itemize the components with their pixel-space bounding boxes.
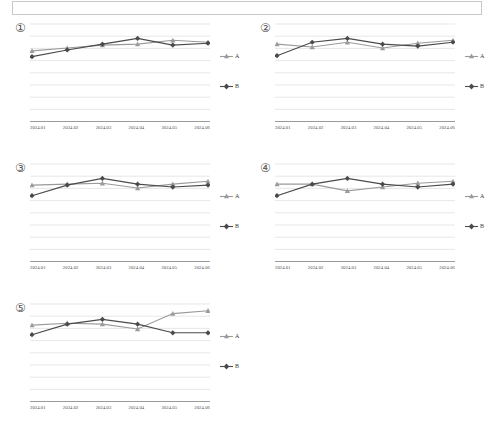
chart-legend: A B: [465, 51, 497, 111]
data-point-marker-b[interactable]: [345, 176, 350, 181]
series-line-a: [32, 311, 208, 329]
data-point-marker-b[interactable]: [205, 330, 210, 335]
x-axis-tick-label: 2024.03: [96, 125, 112, 137]
chart-plot-area[interactable]: [275, 160, 455, 264]
data-point-marker-b[interactable]: [65, 322, 70, 327]
triangle-marker-icon: [220, 52, 233, 61]
data-point-marker-b[interactable]: [100, 317, 105, 322]
x-axis-tick-label: 2024.02: [63, 125, 79, 137]
x-axis-tick-label: 2024.01: [30, 405, 46, 417]
x-axis-tick-label: 2024.06: [194, 265, 210, 277]
legend-label-a: A: [480, 53, 484, 59]
data-point-marker-b[interactable]: [170, 43, 175, 48]
x-axis-tick-label: 2024.02: [63, 405, 79, 417]
top-empty-panel: [12, 1, 482, 15]
chart-plot-area[interactable]: [30, 300, 210, 404]
legend-item-a[interactable]: A: [220, 331, 254, 341]
legend-item-b[interactable]: B: [465, 221, 497, 231]
line-chart-svg: [275, 20, 455, 124]
data-point-marker-b[interactable]: [100, 176, 105, 181]
x-axis-tick-label: 2024.04: [374, 265, 390, 277]
data-point-marker-b[interactable]: [380, 42, 385, 47]
data-point-marker-b[interactable]: [170, 330, 175, 335]
chart-plot-area[interactable]: [30, 160, 210, 264]
x-axis-tick-label: 2024.04: [129, 125, 145, 137]
chart-panel-1: ① 2024.012024.022024.032024.042024.05202…: [6, 18, 246, 158]
chart-panel-3: ③ 2024.012024.022024.032024.042024.05202…: [6, 158, 246, 298]
chart-legend: A B: [220, 191, 254, 251]
gridlines: [30, 164, 210, 249]
data-point-marker-b[interactable]: [380, 182, 385, 187]
x-axis-labels: 2024.012024.022024.032024.042024.052024.…: [30, 125, 210, 137]
gridlines: [30, 24, 210, 109]
triangle-marker-icon: [220, 192, 233, 201]
diamond-marker-icon: [465, 222, 478, 231]
data-point-marker-b[interactable]: [275, 53, 280, 58]
x-axis-tick-label: 2024.02: [63, 265, 79, 277]
legend-item-b[interactable]: B: [220, 221, 254, 231]
x-axis-tick-label: 2024.02: [308, 125, 324, 137]
series-line-a: [32, 40, 208, 51]
x-axis-tick-label: 2024.01: [30, 265, 46, 277]
legend-label-b: B: [480, 223, 484, 229]
data-point-marker-b[interactable]: [65, 183, 70, 188]
chart-index-badge: ②: [259, 22, 272, 35]
legend-label-b: B: [235, 363, 239, 369]
chart-legend: A B: [465, 191, 497, 251]
line-chart-svg: [275, 160, 455, 264]
data-point-marker-b[interactable]: [275, 193, 280, 198]
data-point-marker-b[interactable]: [30, 54, 35, 59]
chart-index-badge: ⑤: [14, 302, 27, 315]
x-axis-tick-label: 2024.01: [275, 125, 291, 137]
x-axis-tick-label: 2024.01: [30, 125, 46, 137]
legend-item-b[interactable]: B: [220, 81, 254, 91]
triangle-marker-icon: [465, 52, 478, 61]
chart-panel-4: ④ 2024.012024.022024.032024.042024.05202…: [251, 158, 491, 298]
chart-index-badge: ①: [14, 22, 27, 35]
legend-item-a[interactable]: A: [465, 191, 497, 201]
x-axis-labels: 2024.012024.022024.032024.042024.052024.…: [275, 265, 455, 277]
triangle-marker-icon: [220, 332, 233, 341]
x-axis-tick-label: 2024.05: [406, 265, 422, 277]
legend-label-a: A: [235, 193, 239, 199]
legend-item-a[interactable]: A: [465, 51, 497, 61]
data-point-marker-b[interactable]: [310, 40, 315, 45]
legend-item-b[interactable]: B: [220, 361, 254, 371]
x-axis-tick-label: 2024.05: [161, 405, 177, 417]
data-point-marker-b[interactable]: [135, 36, 140, 41]
legend-item-a[interactable]: A: [220, 51, 254, 61]
x-axis-tick-label: 2024.06: [439, 125, 455, 137]
chart-legend: A B: [220, 331, 254, 391]
x-axis-tick-label: 2024.06: [194, 405, 210, 417]
gridlines: [275, 164, 455, 249]
chart-legend: A B: [220, 51, 254, 111]
legend-label-a: A: [480, 193, 484, 199]
x-axis-tick-label: 2024.05: [161, 265, 177, 277]
x-axis-tick-label: 2024.03: [96, 405, 112, 417]
diamond-marker-icon: [220, 82, 233, 91]
data-point-marker-b[interactable]: [135, 322, 140, 327]
line-chart-svg: [30, 20, 210, 124]
data-point-marker-b[interactable]: [30, 193, 35, 198]
x-axis-tick-label: 2024.06: [194, 125, 210, 137]
x-axis-tick-label: 2024.05: [406, 125, 422, 137]
x-axis-labels: 2024.012024.022024.032024.042024.052024.…: [275, 125, 455, 137]
chart-panel-5: ⑤ 2024.012024.022024.032024.042024.05202…: [6, 298, 246, 438]
legend-item-a[interactable]: A: [220, 191, 254, 201]
gridlines: [30, 304, 210, 389]
chart-plot-area[interactable]: [275, 20, 455, 124]
x-axis-tick-label: 2024.01: [275, 265, 291, 277]
x-axis-tick-label: 2024.03: [341, 125, 357, 137]
legend-item-b[interactable]: B: [465, 81, 497, 91]
data-point-marker-b[interactable]: [30, 332, 35, 337]
chart-plot-area[interactable]: [30, 20, 210, 124]
series-line-b: [277, 178, 453, 195]
data-point-marker-b[interactable]: [135, 182, 140, 187]
x-axis-labels: 2024.012024.022024.032024.042024.052024.…: [30, 405, 210, 417]
data-point-marker-b[interactable]: [205, 41, 210, 46]
chart-panel-2: ② 2024.012024.022024.032024.042024.05202…: [251, 18, 491, 158]
gridlines: [275, 24, 455, 109]
data-point-marker-b[interactable]: [345, 36, 350, 41]
x-axis-tick-label: 2024.03: [341, 265, 357, 277]
legend-label-a: A: [235, 53, 239, 59]
